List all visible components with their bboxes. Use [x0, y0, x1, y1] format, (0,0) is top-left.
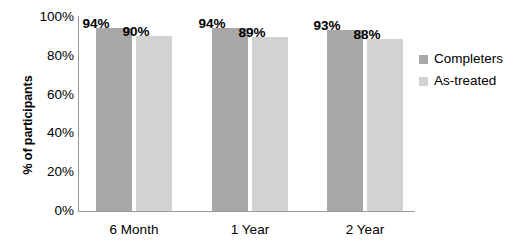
legend-label-astreated: As-treated: [434, 74, 496, 88]
data-label-astreated-6-month: 90%: [110, 25, 162, 39]
y-tick-20: 20%: [22, 165, 74, 179]
x-category-label-1-year: 1 Year: [190, 222, 310, 237]
y-axis-tick-labels: 100% 80% 60% 40% 20% 0%: [22, 0, 74, 252]
bar-astreated-2-year: [367, 39, 403, 211]
data-label-astreated-2-year: 88%: [341, 28, 393, 42]
legend-item-completers: Completers: [419, 48, 519, 70]
data-label-astreated-1-year: 89%: [226, 26, 278, 40]
bar-chart: % of participants 100% 80% 60% 40% 20% 0…: [0, 0, 519, 252]
bar-astreated-6-month: [136, 36, 172, 212]
legend-swatch-icon-astreated: [419, 77, 428, 86]
legend-swatch-icon-completers: [419, 55, 428, 64]
bar-astreated-1-year: [252, 37, 288, 211]
y-tick-40: 40%: [22, 127, 74, 141]
bar-completers-6-month: [96, 28, 132, 211]
x-category-label-2-year: 2 Year: [305, 222, 425, 237]
y-tick-80: 80%: [22, 49, 74, 63]
y-tick-100: 100%: [22, 10, 74, 24]
y-tick-60: 60%: [22, 88, 74, 102]
legend-item-astreated: As-treated: [419, 70, 519, 92]
y-tick-0: 0%: [22, 204, 74, 218]
x-category-label-6-month: 6 Month: [74, 222, 194, 237]
legend-label-completers: Completers: [434, 52, 503, 66]
bar-completers-2-year: [327, 30, 363, 211]
plot-area: [79, 16, 415, 211]
bar-completers-1-year: [212, 28, 248, 211]
chart-legend: Completers As-treated: [419, 48, 519, 92]
